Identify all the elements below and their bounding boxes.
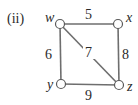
vertex-label-y: y xyxy=(45,77,54,92)
vertex-y xyxy=(57,80,66,89)
vertex-w xyxy=(56,20,65,29)
vertex-label-x: x xyxy=(125,10,133,25)
edge-y-z xyxy=(61,84,119,85)
edge-x-z xyxy=(118,24,119,85)
vertex-x xyxy=(114,20,123,29)
vertex-label-z: z xyxy=(126,79,133,94)
edge-weight-x-z: 8 xyxy=(122,47,129,62)
edge-weight-w-y: 6 xyxy=(45,47,52,62)
vertex-z xyxy=(115,81,124,90)
figure-label: (ii) xyxy=(7,11,24,27)
vertex-label-w: w xyxy=(45,10,55,25)
edge-weight-y-z: 9 xyxy=(85,88,92,103)
edge-w-y xyxy=(60,24,61,84)
edge-weight-w-x: 5 xyxy=(85,7,92,22)
weighted-graph-diagram: (ii) 5 6 7 8 9 w x y z xyxy=(0,0,138,105)
edge-weight-w-z: 7 xyxy=(85,45,92,60)
